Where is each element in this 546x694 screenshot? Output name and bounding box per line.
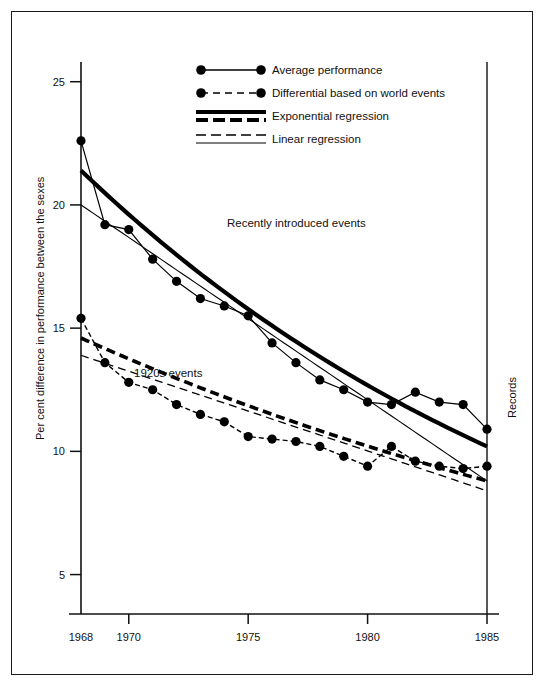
data-point-marker <box>220 417 229 426</box>
data-point-marker <box>148 385 157 394</box>
data-point-marker <box>482 462 491 471</box>
data-point-marker <box>315 375 324 384</box>
data-point-marker <box>196 410 205 419</box>
legend-item: Average performance <box>196 64 382 76</box>
annotation-recently-introduced-events: Recently introduced events <box>227 217 366 229</box>
data-point-marker <box>267 434 276 443</box>
legend: Average performanceDifferential based on… <box>196 64 445 145</box>
right-axis-title: Records <box>506 377 518 418</box>
data-point-marker <box>124 378 133 387</box>
y-tick-group: 510152025 <box>53 76 81 581</box>
figure-container: 510152025 19681970197519801985 Per cent … <box>0 0 546 694</box>
legend-label: Linear regression <box>272 133 361 145</box>
data-point-marker <box>100 358 109 367</box>
regression-curve <box>81 170 487 446</box>
data-point-marker <box>124 225 133 234</box>
data-point-marker <box>172 400 181 409</box>
data-point-marker <box>482 425 491 434</box>
legend-item: Differential based on world events <box>196 87 445 99</box>
data-point-marker <box>244 432 253 441</box>
data-point-marker <box>315 442 324 451</box>
data-point-marker <box>76 314 85 323</box>
legend-label: Differential based on world events <box>272 87 445 99</box>
chart-svg: 510152025 19681970197519801985 Per cent … <box>0 0 546 694</box>
data-point-marker <box>435 397 444 406</box>
data-point-marker <box>339 385 348 394</box>
x-tick-label: 1970 <box>117 631 141 643</box>
y-tick-label: 25 <box>53 76 65 88</box>
data-point-marker <box>244 311 253 320</box>
x-tick-group: 19681970197519801985 <box>69 614 499 643</box>
legend-item: Exponential regression <box>196 110 389 122</box>
data-point-marker <box>172 277 181 286</box>
legend-label: Average performance <box>272 64 382 76</box>
data-point-marker <box>459 464 468 473</box>
data-point-marker <box>363 397 372 406</box>
data-point-marker <box>411 457 420 466</box>
data-point-marker <box>363 462 372 471</box>
data-point-marker <box>291 437 300 446</box>
data-point-marker <box>387 442 396 451</box>
legend-item: Linear regression <box>196 133 361 145</box>
x-tick-label: 1985 <box>475 631 499 643</box>
data-point-marker <box>459 400 468 409</box>
y-tick-label: 10 <box>53 445 65 457</box>
data-point-marker <box>196 294 205 303</box>
x-tick-label: 1975 <box>236 631 260 643</box>
y-tick-label: 20 <box>53 199 65 211</box>
data-point-marker <box>411 388 420 397</box>
data-point-marker <box>435 462 444 471</box>
x-tick-label: 1980 <box>355 631 379 643</box>
series-line <box>81 318 487 468</box>
regression-curve <box>81 338 487 481</box>
data-point-marker <box>267 338 276 347</box>
data-point-marker <box>100 220 109 229</box>
series-line <box>81 141 487 429</box>
data-point-marker <box>220 301 229 310</box>
x-tick-label: 1968 <box>69 631 93 643</box>
data-point-marker <box>76 136 85 145</box>
y-tick-label: 15 <box>53 322 65 334</box>
data-point-marker <box>387 400 396 409</box>
legend-label: Exponential regression <box>272 110 389 122</box>
y-tick-label: 5 <box>59 569 65 581</box>
data-point-marker <box>291 358 300 367</box>
annotation-1920s-events: 1920s events <box>134 367 203 379</box>
data-point-marker <box>148 255 157 264</box>
y-axis-title: Per cent difference in performance betwe… <box>34 176 46 440</box>
data-point-marker <box>339 452 348 461</box>
